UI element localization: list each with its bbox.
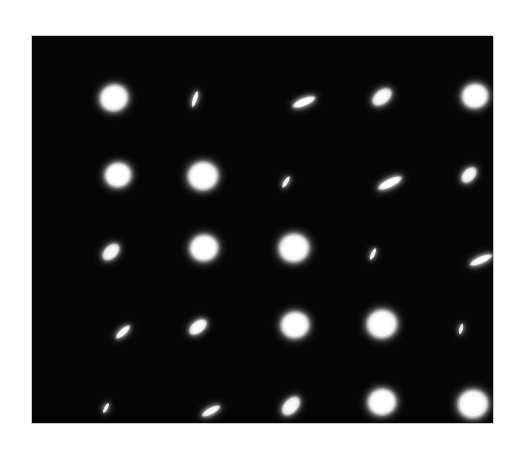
image-canvas (0, 0, 523, 449)
psf-image-panel (32, 36, 493, 423)
psf-spot-plot (32, 36, 493, 423)
